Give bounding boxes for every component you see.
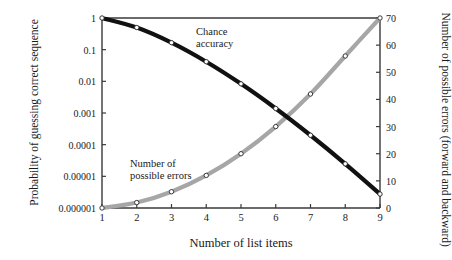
y-axis-left-ticklabel: 1	[0, 13, 96, 24]
y-axis-right-ticklabel: 20	[386, 148, 396, 159]
x-axis-ticklabel: 4	[204, 212, 209, 223]
annotation-errors-line1: Number of	[130, 158, 192, 170]
annotation-errors-line2: possible errors	[130, 170, 192, 182]
annotation-chance-line2: accuracy	[196, 38, 233, 50]
y-axis-left-ticklabel: 0.1	[0, 44, 96, 55]
y-axis-right-ticklabel: 50	[386, 67, 396, 78]
x-axis-ticklabel: 8	[343, 212, 348, 223]
y-axis-left-ticklabel: 0.0001	[0, 139, 96, 150]
x-axis-ticklabel: 7	[308, 212, 313, 223]
y-axis-left-ticklabel: 0.01	[0, 76, 96, 87]
x-axis-ticklabel: 6	[273, 212, 278, 223]
y-axis-left-ticklabel: 0.00001	[0, 171, 96, 182]
y-axis-right-ticklabel: 40	[386, 94, 396, 105]
annotation-possible-errors: Number of possible errors	[130, 158, 192, 182]
y-axis-right-ticklabel: 0	[386, 203, 391, 214]
y-axis-right-ticklabel: 70	[386, 13, 396, 24]
y-axis-right-ticklabel: 30	[386, 121, 396, 132]
y-axis-left-ticklabel: 0.001	[0, 108, 96, 119]
y-axis-right-ticklabel: 10	[386, 175, 396, 186]
x-axis-ticklabel: 3	[169, 212, 174, 223]
x-axis-ticklabel: 5	[238, 212, 243, 223]
annotation-chance-line1: Chance	[196, 26, 233, 38]
y-axis-right-ticklabel: 60	[386, 40, 396, 51]
annotation-chance-accuracy: Chance accuracy	[196, 26, 233, 50]
y-axis-left-ticklabel: 0.000001	[0, 203, 96, 214]
y-axis-right-title: Number of possible errors (forward and b…	[440, 12, 452, 208]
x-axis-ticklabel: 1	[99, 212, 104, 223]
x-axis-ticklabel: 2	[134, 212, 139, 223]
x-axis-title: Number of list items	[102, 236, 380, 250]
x-axis-ticklabel: 9	[377, 212, 382, 223]
